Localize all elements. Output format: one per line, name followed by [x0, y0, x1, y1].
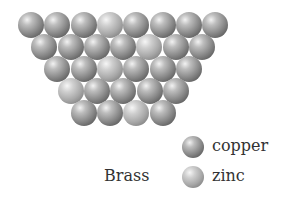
zinc-atom — [123, 100, 149, 126]
copper-atom — [71, 100, 97, 126]
diagram-title: Brass — [104, 167, 149, 185]
copper-legend-label: copper — [212, 137, 268, 155]
copper-atom — [150, 100, 176, 126]
copper-legend-icon — [182, 136, 204, 158]
brass-atom-lattice — [0, 0, 286, 130]
zinc-legend-label: zinc — [212, 167, 245, 185]
copper-atom — [97, 100, 123, 126]
zinc-legend-icon — [182, 166, 204, 188]
